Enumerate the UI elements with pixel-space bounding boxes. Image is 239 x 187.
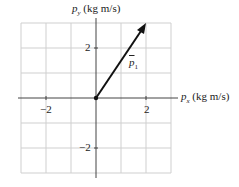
y-axis-label: py (kg m/s) — [72, 2, 120, 17]
tick-y-neg2: −2 — [79, 141, 91, 153]
tick-x-2: 2 — [144, 103, 150, 115]
momentum-diagram: py (kg m/s) px (kg m/s) −2 2 2 −2 p1 — [0, 0, 239, 187]
origin-dot — [94, 96, 98, 100]
vector-label: p1 — [129, 56, 138, 71]
tick-x-neg2: −2 — [40, 103, 52, 115]
tick-y-2: 2 — [85, 41, 91, 53]
arrowhead-icon — [137, 23, 146, 34]
x-axis-label: px (kg m/s) — [181, 90, 229, 105]
